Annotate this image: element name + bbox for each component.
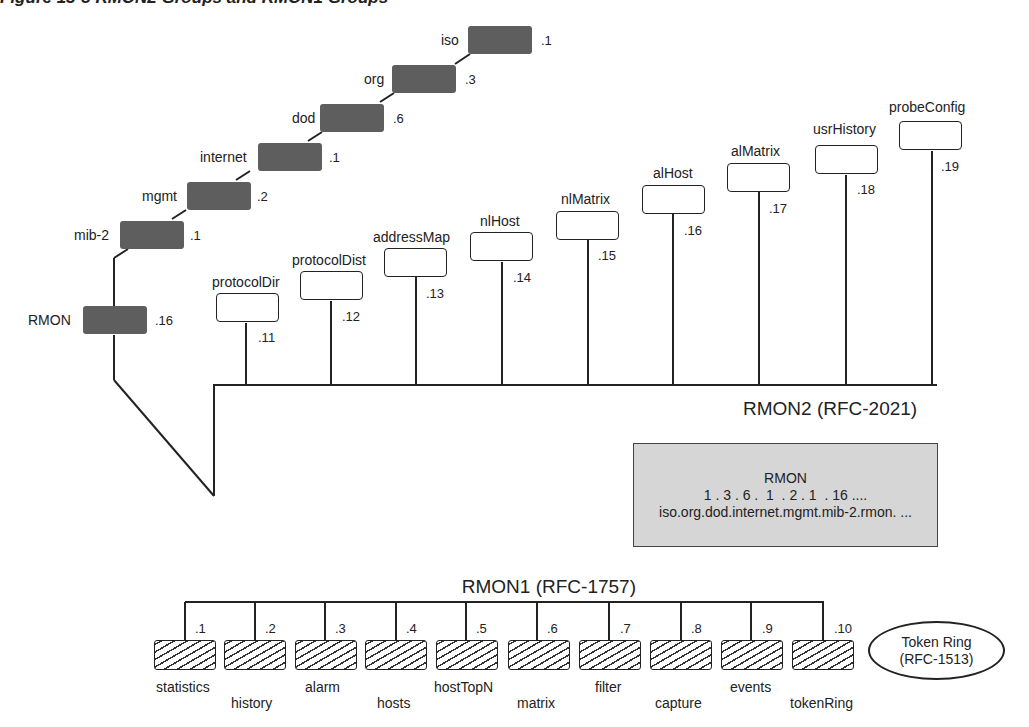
node-label: mib-2 [74, 228, 109, 242]
node-oid: .1 [541, 34, 552, 47]
group-oid: .12 [342, 310, 360, 323]
group-oid: .1 [195, 622, 206, 635]
oid-box-title: RMON [764, 470, 807, 487]
group-oid: .4 [406, 622, 417, 635]
dark-node-box [187, 182, 251, 210]
node-label: iso [441, 33, 459, 47]
dark-node-box [392, 65, 456, 93]
group-label: matrix [517, 696, 555, 710]
group-box [470, 232, 533, 261]
dark-node-box [120, 221, 184, 249]
node-oid: .6 [393, 112, 404, 125]
node-oid: .3 [465, 73, 476, 86]
connector-lines [0, 0, 1029, 727]
group-box [556, 211, 619, 240]
group-oid: .8 [691, 622, 702, 635]
group-box [727, 163, 790, 192]
group-oid: .9 [762, 622, 773, 635]
group-oid: .3 [335, 622, 346, 635]
dark-node-box [83, 306, 147, 334]
hatched-group-box [721, 640, 783, 670]
node-oid: .1 [329, 151, 340, 164]
group-label: protocolDir [212, 275, 280, 289]
oid-box-named: iso.org.dod.internet.mgmt.mib-2.rmon. ..… [659, 504, 912, 521]
group-oid: .14 [513, 271, 531, 284]
group-label: alarm [305, 680, 340, 694]
oid-box-numeric: 1 . 3 . 6 . 1 . 2 . 1 . 16 .... [704, 487, 867, 504]
group-label: probeConfig [889, 100, 965, 114]
group-box [384, 248, 447, 277]
group-oid: .5 [476, 622, 487, 635]
hatched-group-box [224, 640, 286, 670]
group-box [300, 271, 363, 300]
group-oid: .19 [941, 160, 959, 173]
group-oid: .16 [684, 224, 702, 237]
group-label: history [231, 696, 272, 710]
group-oid: .11 [258, 331, 275, 344]
group-oid: .10 [834, 622, 852, 635]
group-label: protocolDist [292, 253, 366, 267]
group-oid: .6 [547, 622, 558, 635]
group-box [216, 293, 279, 322]
rmon-groups-diagram: Figure 15-3 RMON2 Groups and RMON1 Group… [0, 0, 1029, 727]
hatched-group-box [154, 640, 216, 670]
group-label: filter [595, 680, 621, 694]
node-oid: .16 [155, 314, 173, 327]
group-label: hostTopN [434, 680, 493, 694]
node-label: internet [200, 150, 247, 164]
group-label: nlMatrix [561, 192, 610, 206]
rmon-oid-summary-box: RMON 1 . 3 . 6 . 1 . 2 . 1 . 16 .... iso… [633, 443, 938, 547]
hatched-group-box [295, 640, 357, 670]
rmon1-label: RMON1 (RFC-1757) [462, 577, 636, 596]
dark-node-box [320, 104, 384, 132]
group-label: nlHost [480, 214, 520, 228]
group-oid: .17 [769, 202, 787, 215]
hatched-group-box [365, 640, 427, 670]
group-oid: .15 [598, 249, 616, 262]
dark-node-box [258, 143, 322, 171]
group-label: alMatrix [731, 144, 780, 158]
hatched-group-box [650, 640, 712, 670]
hatched-group-box [508, 640, 570, 670]
group-label: addressMap [373, 230, 450, 244]
group-oid: .18 [857, 183, 875, 196]
node-label: org [364, 72, 384, 86]
token-ring-line1: Token Ring [901, 634, 971, 651]
group-box [899, 121, 962, 150]
hatched-group-box [792, 640, 854, 670]
group-oid: .2 [265, 622, 276, 635]
group-box [642, 185, 705, 214]
hatched-group-box [579, 640, 641, 670]
group-box [815, 145, 878, 174]
dark-node-box [468, 26, 532, 54]
token-ring-line2: (RFC-1513) [900, 651, 974, 668]
group-label: statistics [156, 680, 210, 694]
group-label: hosts [377, 696, 410, 710]
rmon2-label: RMON2 (RFC-2021) [743, 399, 917, 418]
node-label: RMON [28, 313, 71, 327]
node-label: dod [292, 111, 315, 125]
hatched-group-box [436, 640, 498, 670]
node-label: mgmt [142, 189, 177, 203]
group-label: usrHistory [813, 122, 876, 136]
node-oid: .2 [257, 190, 268, 203]
group-label: alHost [653, 166, 693, 180]
group-oid: .13 [426, 287, 444, 300]
group-oid: .7 [620, 622, 631, 635]
group-label: events [730, 680, 771, 694]
group-label: tokenRing [790, 696, 853, 710]
token-ring-rfc-ellipse: Token Ring (RFC-1513) [868, 621, 1005, 680]
group-label: capture [655, 696, 702, 710]
node-oid: .1 [190, 229, 201, 242]
